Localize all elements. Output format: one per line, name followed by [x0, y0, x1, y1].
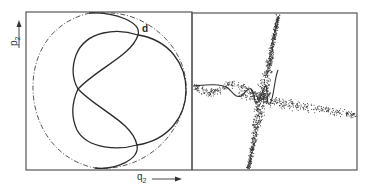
x-axis-label: q2	[137, 171, 146, 184]
energy-boundary-curve	[33, 13, 186, 168]
p2-arrow-head-icon	[17, 20, 22, 27]
figure: p2 q2 d	[0, 0, 373, 189]
y-axis-label-subscript: 2	[14, 37, 21, 41]
y-axis-label-text: p	[8, 40, 19, 46]
figure-canvas	[0, 0, 373, 189]
right-panel-frame	[192, 13, 357, 170]
point-d-label: d	[142, 23, 148, 34]
invariant-curves	[73, 13, 186, 168]
y-axis-label: p2	[8, 37, 21, 46]
scatter-points	[194, 14, 357, 169]
q2-arrow-head-icon	[175, 177, 182, 182]
x-axis-label-subscript: 2	[143, 177, 147, 184]
left-panel-frame	[26, 12, 192, 170]
